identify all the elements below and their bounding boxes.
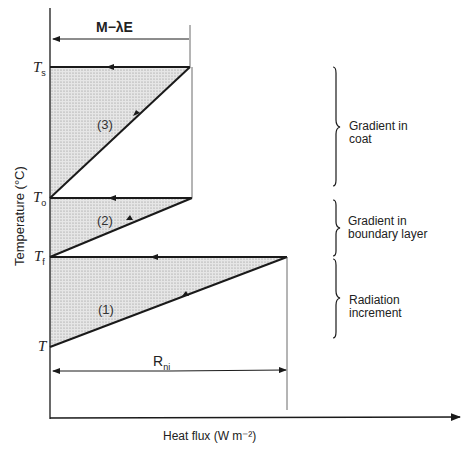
brace-label-boundary: Gradient inboundary layer bbox=[348, 215, 427, 241]
x-axis-label: Heat flux (W m⁻²) bbox=[163, 430, 256, 443]
segment-2-label: (2) bbox=[97, 213, 113, 228]
segment-3-label: (3) bbox=[97, 117, 113, 132]
top-span-label: M−λE bbox=[96, 21, 133, 34]
brace-boundary bbox=[333, 200, 340, 256]
span-arrow-bottom-r bbox=[170, 370, 286, 371]
brace-label-radiation: Radiationincrement bbox=[349, 294, 402, 320]
brace-coat bbox=[333, 67, 340, 186]
temp-level-ts: Ts bbox=[33, 59, 46, 78]
x-axis bbox=[50, 417, 460, 418]
brace-radiation bbox=[333, 259, 340, 338]
y-axis-label: Temperature (°C) bbox=[12, 166, 27, 266]
temp-level-to: To bbox=[33, 189, 46, 208]
temp-level-t: T bbox=[38, 338, 46, 355]
segment-1-label: (1) bbox=[98, 302, 114, 317]
brace-label-coat: Gradient incoat bbox=[349, 120, 408, 146]
bottom-span-label: Rni bbox=[153, 355, 170, 374]
temp-level-tf: Tf bbox=[34, 248, 45, 267]
